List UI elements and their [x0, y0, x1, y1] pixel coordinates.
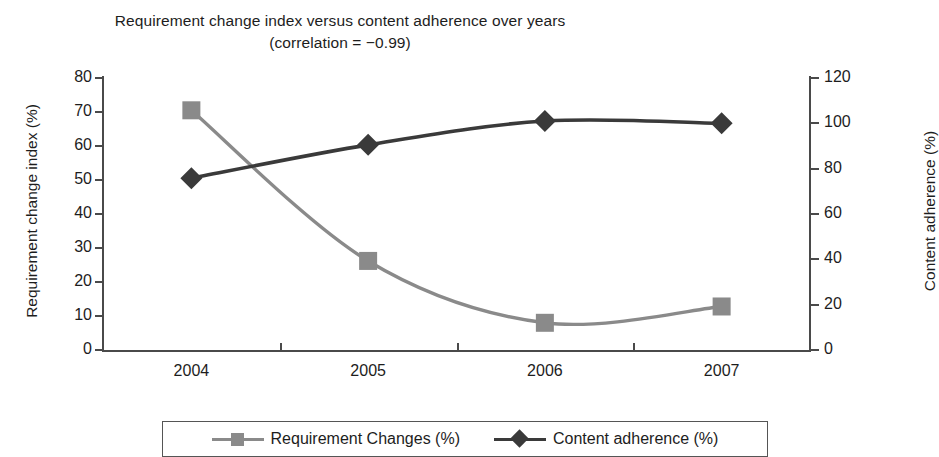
right-tick-label: 40 — [824, 249, 874, 267]
x-tick-label: 2004 — [146, 362, 236, 380]
right-tick-mark — [811, 304, 819, 306]
left-tick-mark — [95, 315, 103, 317]
data-point-diamond — [534, 110, 556, 132]
left-tick-mark — [95, 77, 103, 79]
left-tick-label: 60 — [46, 136, 92, 154]
x-tick-label: 2005 — [323, 362, 413, 380]
left-tick-mark — [95, 179, 103, 181]
x-tick-label: 2006 — [500, 362, 590, 380]
left-tick-mark — [95, 213, 103, 215]
chart-title-line1: Requirement change index versus content … — [115, 12, 566, 29]
series-line-2 — [191, 120, 721, 178]
left-tick-mark — [95, 111, 103, 113]
diamond-marker-icon — [494, 432, 546, 446]
right-axis-title: Content adherence (%) — [921, 61, 939, 361]
right-tick-label: 100 — [824, 113, 874, 131]
left-tick-label: 20 — [46, 272, 92, 290]
right-tick-mark — [811, 122, 819, 124]
right-tick-mark — [811, 258, 819, 260]
data-point-square — [536, 314, 554, 332]
legend-label-requirement-changes: Requirement Changes (%) — [271, 430, 460, 448]
x-tick-mark — [280, 343, 282, 352]
data-point-diamond — [180, 167, 202, 189]
x-tick-mark — [633, 343, 635, 352]
left-tick-mark — [95, 349, 103, 351]
data-point-diamond — [711, 112, 733, 134]
left-tick-label: 80 — [46, 68, 92, 86]
chart-legend: Requirement Changes (%) Content adherenc… — [162, 421, 768, 457]
data-point-square — [713, 297, 731, 315]
left-tick-mark — [95, 247, 103, 249]
right-tick-label: 120 — [824, 68, 874, 86]
square-marker-icon — [212, 432, 264, 446]
left-tick-label: 0 — [46, 340, 92, 358]
right-tick-mark — [811, 168, 819, 170]
right-tick-label: 80 — [824, 159, 874, 177]
left-tick-mark — [95, 145, 103, 147]
left-tick-label: 70 — [46, 102, 92, 120]
right-tick-mark — [811, 77, 819, 79]
chart-subtitle: (correlation = −0.99) — [0, 32, 680, 54]
left-axis-title: Requirement change index (%) — [23, 61, 41, 361]
legend-item-requirement-changes: Requirement Changes (%) — [212, 430, 460, 448]
right-tick-label: 20 — [824, 295, 874, 313]
left-tick-label: 50 — [46, 170, 92, 188]
right-tick-label: 0 — [824, 340, 874, 358]
data-point-square — [182, 101, 200, 119]
data-point-square — [359, 252, 377, 270]
right-tick-mark — [811, 213, 819, 215]
left-tick-label: 30 — [46, 238, 92, 256]
legend-label-content-adherence: Content adherence (%) — [553, 430, 718, 448]
x-tick-mark — [457, 343, 459, 352]
right-tick-mark — [811, 349, 819, 351]
left-tick-mark — [95, 281, 103, 283]
x-tick-label: 2007 — [677, 362, 767, 380]
series-line-1 — [191, 110, 721, 324]
legend-item-content-adherence: Content adherence (%) — [494, 430, 718, 448]
left-tick-label: 10 — [46, 306, 92, 324]
chart-title: Requirement change index versus content … — [0, 10, 680, 54]
right-tick-label: 60 — [824, 204, 874, 222]
left-tick-label: 40 — [46, 204, 92, 222]
data-point-diamond — [357, 134, 379, 156]
